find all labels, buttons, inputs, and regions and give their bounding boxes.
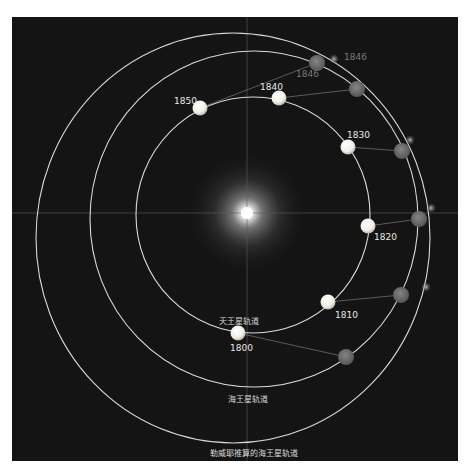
sun xyxy=(241,207,253,219)
neptune-planet xyxy=(411,211,427,227)
predicted-year-label: 1846 xyxy=(344,52,367,62)
predicted-neptune xyxy=(426,203,436,213)
neptune-planet xyxy=(393,287,409,303)
year-label-1820: 1820 xyxy=(374,232,397,242)
connection-line xyxy=(279,89,357,98)
predicted-neptune xyxy=(421,282,431,292)
uranus-orbit-label: 天王星轨道 xyxy=(219,316,259,326)
year-label-1800: 1800 xyxy=(230,343,253,353)
connection-line xyxy=(328,295,401,302)
predicted-neptune xyxy=(405,135,415,145)
year-label-1830: 1830 xyxy=(347,130,370,140)
year-label-1850: 1850 xyxy=(174,96,197,106)
leverrier-orbit-label: 勒威耶推算的海王星轨道 xyxy=(210,448,298,458)
year-label-1840: 1840 xyxy=(260,82,283,92)
connection-line xyxy=(348,147,402,151)
uranus-planet-1810 xyxy=(321,295,336,310)
neptune-planet xyxy=(338,349,354,365)
year-label-1810: 1810 xyxy=(335,310,358,320)
diagram-canvas: 1800 1810 1820 1830 1840 1850 1846 1846 … xyxy=(12,17,458,461)
orbit-diagram: 1800 1810 1820 1830 1840 1850 1846 1846 … xyxy=(12,17,458,461)
uranus-planet-1800 xyxy=(231,326,246,341)
neptune-planet xyxy=(394,143,410,159)
actual-year-label: 1846 xyxy=(296,69,319,79)
neptune-planet xyxy=(349,81,365,97)
neptune-orbit-label: 海王星轨道 xyxy=(228,394,268,404)
uranus-planet-1840 xyxy=(272,91,287,106)
neptune-positions xyxy=(309,55,427,365)
uranus-planet-1830 xyxy=(341,140,356,155)
connection-line xyxy=(238,333,346,357)
predicted-neptune xyxy=(329,54,339,64)
